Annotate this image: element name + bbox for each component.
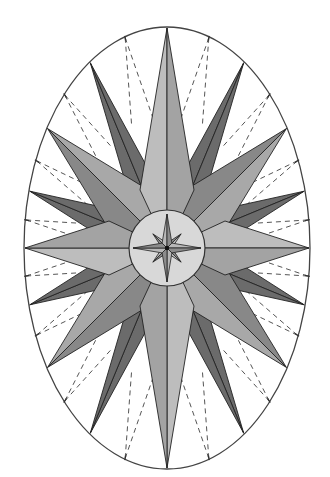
compass-rose-svg	[0, 0, 330, 477]
center-medallion	[129, 210, 205, 286]
center-dot	[165, 246, 169, 250]
compass-rose-diagram	[0, 0, 330, 477]
